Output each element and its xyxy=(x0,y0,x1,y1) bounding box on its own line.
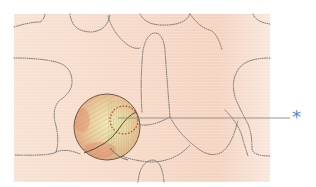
callout-asterisk: * xyxy=(292,108,301,126)
anatomical-diagram: * xyxy=(0,0,316,187)
diagram-canvas xyxy=(0,0,316,187)
